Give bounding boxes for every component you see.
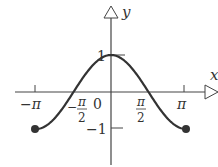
x-tick-label-neg-half-pi-den: 2 — [78, 111, 86, 125]
x-tick-label-neg-half-pi-num: π — [77, 95, 87, 109]
right-endpoint-dot — [182, 125, 190, 133]
x-tick-label-half-pi-den: 2 — [137, 111, 145, 125]
x-axis-arrow-icon — [205, 85, 218, 99]
x-tick-label-zero: 0 — [93, 96, 102, 112]
x-tick-label-pi: π — [176, 96, 187, 112]
x-tick-label-neg-half-pi-sign: − — [67, 100, 77, 114]
x-axis-label: x — [210, 66, 218, 84]
y-axis-label: y — [121, 3, 131, 21]
y-tick-label-neg1: −1 — [86, 121, 107, 137]
x-tick-label-half-pi-num: π — [136, 95, 146, 109]
y-tick-label-1: 1 — [97, 48, 106, 64]
x-tick-label-neg-pi: −π — [20, 96, 42, 112]
left-endpoint-dot — [31, 125, 39, 133]
y-axis-arrow-icon — [104, 6, 118, 18]
cosine-graph: y x 1 −1 −π − π 2 0 π 2 π — [0, 0, 218, 167]
